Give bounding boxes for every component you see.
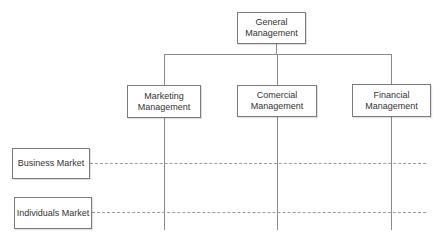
- connector-marketing: [164, 54, 165, 85]
- marketing-management-label: Marketing Management: [128, 91, 200, 113]
- comercial-management-box: Comercial Management: [237, 85, 317, 117]
- marketing-management-box: Marketing Management: [127, 85, 201, 118]
- general-management-box: General Management: [237, 12, 306, 44]
- individuals-market-label: Individuals Market: [17, 208, 90, 219]
- business-market-label: Business Market: [18, 158, 85, 169]
- financial-management-label: Financial Management: [353, 90, 430, 112]
- financial-management-box: Financial Management: [352, 84, 431, 117]
- connector-comercial: [277, 54, 278, 85]
- column-line-comercial: [277, 117, 278, 230]
- row-line-individuals: [92, 212, 426, 213]
- connector-financial: [391, 54, 392, 84]
- column-line-marketing: [164, 118, 165, 230]
- comercial-management-label: Comercial Management: [238, 90, 316, 112]
- business-market-box: Business Market: [12, 148, 90, 179]
- root-connector: [276, 43, 277, 54]
- horizontal-connector: [164, 54, 392, 55]
- general-management-label: General Management: [238, 17, 305, 39]
- individuals-market-box: Individuals Market: [14, 197, 92, 229]
- row-line-business: [90, 163, 426, 164]
- column-line-financial: [391, 117, 392, 230]
